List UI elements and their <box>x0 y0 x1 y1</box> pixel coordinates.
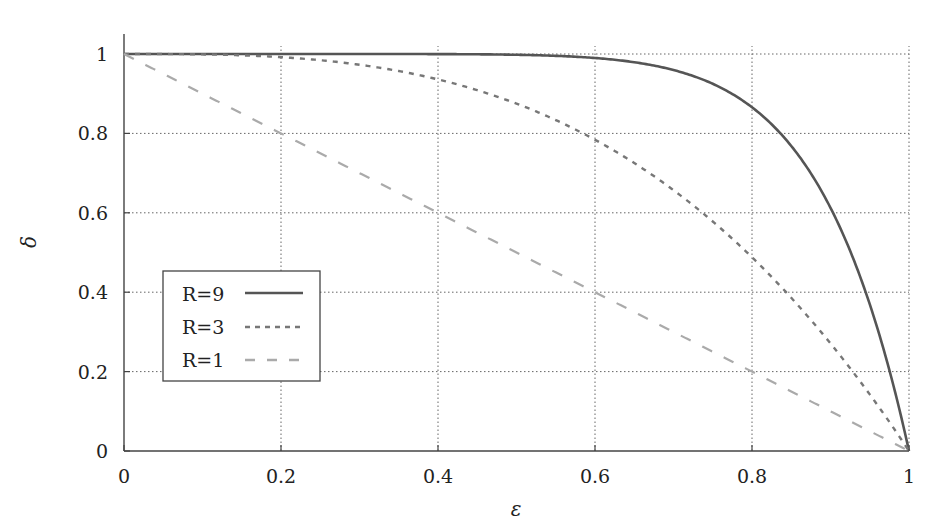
y-tick-label: 0 <box>96 440 108 462</box>
x-tick-label: 0.4 <box>423 465 453 487</box>
x-axis-label: ε <box>511 497 522 521</box>
y-tick-label: 0.8 <box>78 122 108 144</box>
y-tick-label: 0.2 <box>78 361 108 383</box>
x-tick-label: 0.8 <box>737 465 767 487</box>
axes <box>124 34 909 451</box>
x-tick-label: 0.2 <box>266 465 296 487</box>
legend-label-r3: R=3 <box>182 316 224 338</box>
chart-figure: 00.20.40.60.8100.20.40.60.81 ε δ R=9 R=3… <box>0 0 951 532</box>
y-tick-label: 1 <box>96 43 108 65</box>
legend-label-r9: R=9 <box>182 283 224 305</box>
curve-r1 <box>124 54 909 451</box>
tick-labels: 00.20.40.60.8100.20.40.60.81 <box>78 43 915 487</box>
legend: R=9 R=3 R=1 <box>163 271 320 381</box>
y-tick-label: 0.4 <box>78 281 108 303</box>
y-tick-label: 0.6 <box>78 202 108 224</box>
curves <box>124 54 909 451</box>
x-tick-label: 0.6 <box>580 465 610 487</box>
x-tick-label: 1 <box>903 465 915 487</box>
legend-label-r1: R=1 <box>182 349 224 371</box>
y-axis-label: δ <box>17 236 41 248</box>
x-tick-label: 0 <box>118 465 130 487</box>
